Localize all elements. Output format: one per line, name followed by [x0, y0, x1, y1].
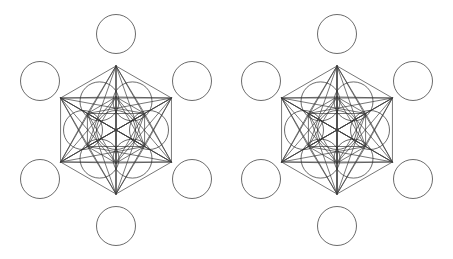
circle-outer-bottom-right	[394, 160, 433, 199]
metatron-cube-right	[227, 0, 453, 259]
circle-outer-top-right	[173, 62, 212, 101]
circle-outer-top	[97, 15, 136, 54]
circle-outer-bottom-left	[242, 160, 281, 199]
outer-hexagon-edge	[282, 162, 337, 194]
connection-lines-group	[282, 66, 393, 194]
circle-outer-bottom-right	[173, 160, 212, 199]
outer-hexagon-edge	[116, 162, 171, 194]
circle-outer-top-right	[394, 62, 433, 101]
radial-chord	[61, 98, 116, 163]
outer-hexagon-edge	[337, 66, 392, 98]
radial-chord	[61, 147, 145, 163]
radial-chord	[116, 97, 171, 162]
outer-hexagon-edge	[61, 66, 116, 98]
radial-chord	[282, 98, 366, 114]
outer-hexagon-edge	[337, 162, 392, 194]
metatron-cube-left	[0, 0, 226, 259]
radial-chord	[282, 98, 337, 163]
circle-outer-bottom-left	[21, 160, 60, 199]
radial-chord	[61, 98, 145, 114]
radial-chord	[282, 147, 366, 163]
circle-outer-bottom	[97, 207, 136, 246]
circle-outer-top	[318, 15, 357, 54]
circle-outer-top-left	[21, 62, 60, 101]
radial-chord	[308, 98, 392, 114]
outer-hexagon-edge	[282, 66, 337, 98]
circle-outer-top-left	[242, 62, 281, 101]
circle-outer-bottom	[318, 207, 357, 246]
drawing-canvas	[0, 0, 453, 259]
radial-chord	[87, 98, 171, 114]
radial-chord	[337, 97, 392, 162]
outer-hexagon-edge	[116, 66, 171, 98]
outer-hexagon-edge	[61, 162, 116, 194]
connection-lines-group	[61, 66, 172, 194]
